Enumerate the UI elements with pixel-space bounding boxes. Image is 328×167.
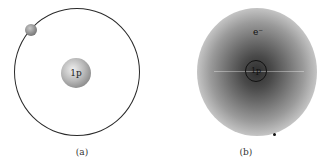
nucleus-icon: 1p	[61, 58, 91, 88]
caption-a: (a)	[0, 147, 164, 157]
panel-b-electron-cloud: 1p e⁻ (b)	[164, 0, 328, 167]
electron-label: e⁻	[253, 27, 263, 37]
dot-mark	[273, 133, 276, 136]
caption-b: (b)	[164, 147, 328, 157]
panel-a-bohr-model: 1p (a)	[0, 0, 164, 167]
electron-icon	[25, 24, 37, 36]
nucleus-label: 1p	[246, 61, 266, 81]
nucleus-circle-icon: 1p	[245, 60, 267, 82]
nucleus-label: 1p	[61, 58, 91, 88]
